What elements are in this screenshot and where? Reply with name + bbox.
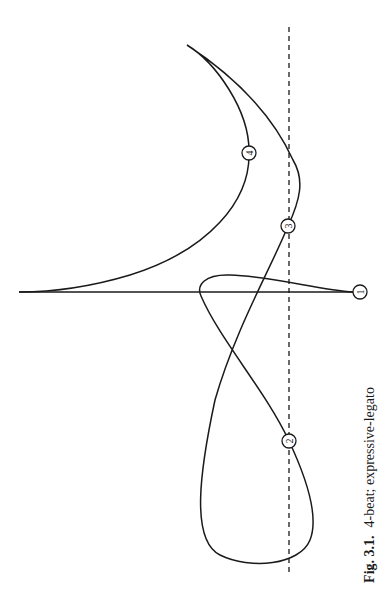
svg-text:2: 2 <box>284 439 295 444</box>
figure-caption: Fig. 3.1.4-beat; expressive-legato <box>362 387 378 583</box>
beat-2-marker: 2 <box>282 434 296 448</box>
conducting-pattern-diagram: 1 2 3 4 <box>0 0 392 600</box>
beat-4-marker: 4 <box>242 146 256 160</box>
svg-text:1: 1 <box>355 290 366 295</box>
beat-1-marker: 1 <box>353 285 367 299</box>
caption-label: Fig. 3.1. <box>362 535 377 582</box>
beat-3-marker: 3 <box>281 219 295 233</box>
beat-path-curve <box>19 45 353 563</box>
svg-text:4: 4 <box>244 151 255 156</box>
svg-text:3: 3 <box>283 224 294 229</box>
caption-text: 4-beat; expressive-legato <box>362 387 377 527</box>
